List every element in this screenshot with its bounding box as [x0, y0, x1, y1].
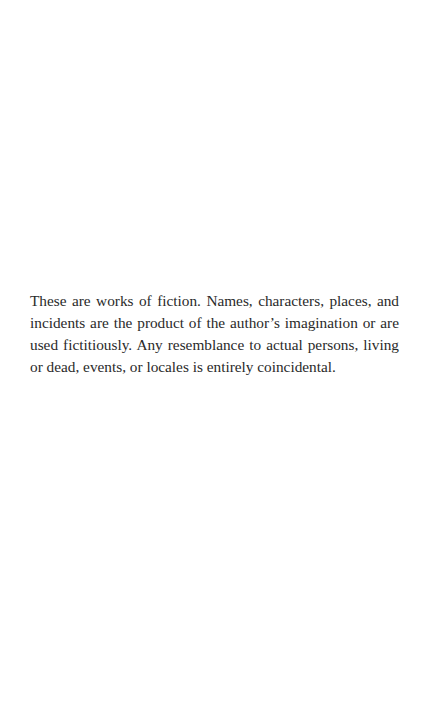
- fiction-disclaimer-paragraph: These are works of fiction. Names, chara…: [30, 290, 399, 378]
- book-page: These are works of fiction. Names, chara…: [0, 0, 431, 701]
